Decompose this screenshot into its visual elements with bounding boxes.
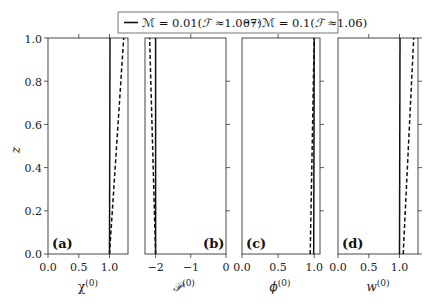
- y-axis-label: z: [9, 146, 23, 154]
- panel-letter: (d): [342, 236, 363, 251]
- series-dashed: [150, 38, 156, 254]
- x-tick-label: 0.5: [360, 261, 378, 274]
- panel-letter: (a): [52, 236, 73, 251]
- y-tick-label: 0.4: [25, 162, 43, 175]
- panel-letter: (b): [203, 236, 224, 251]
- figure: ℳ = 0.01(ℱ ≈1.007) ℳ = 0.1(ℱ ≈1.06) z 0.…: [0, 0, 445, 307]
- panel-d: (d) 0.0 0.5 1.0 w(0): [329, 34, 422, 294]
- panel-frame: [145, 38, 226, 254]
- x-tick-label: 0.0: [233, 261, 251, 274]
- legend-dashed-label: ℳ = 0.1(ℱ ≈1.06): [262, 16, 367, 30]
- panel-a: (a) 0.0 0.5 1.0 χ(0): [39, 34, 128, 294]
- x-axis-label: ϕ(0): [270, 278, 291, 294]
- x-tick-label: 1.0: [101, 261, 119, 274]
- x-tick-label: 0: [223, 261, 230, 274]
- series-dashed: [403, 38, 414, 254]
- y-tick-label: 0.6: [25, 119, 43, 132]
- x-axis-label: 𝒫(0): [173, 278, 195, 294]
- panel-b: (b) −2 −1 0 𝒫(0): [145, 34, 230, 294]
- panel-frame: [48, 38, 128, 254]
- x-tick-label: 0.0: [39, 261, 57, 274]
- x-tick-label: 0.5: [70, 261, 88, 274]
- y-tick-label: 1.0: [25, 33, 43, 46]
- series-solid: [400, 38, 401, 254]
- x-tick-label: 0.0: [329, 261, 347, 274]
- x-tick-label: 1.0: [305, 261, 323, 274]
- y-tick-label: 0.2: [25, 205, 43, 218]
- x-axis-label: w(0): [366, 278, 389, 294]
- legend-solid-label: ℳ = 0.01(ℱ ≈1.007): [142, 16, 262, 30]
- y-tick-labels: 0.0 0.2 0.4 0.6 0.8 1.0: [25, 33, 43, 261]
- y-tick-label: 0.0: [25, 248, 43, 261]
- x-tick-label: −1: [183, 261, 199, 274]
- panel-c: (c) 0.0 0.5 1.0 ϕ(0): [233, 34, 324, 294]
- x-tick-label: 0.5: [269, 261, 287, 274]
- panel-frame: [338, 38, 418, 254]
- series-solid: [110, 38, 111, 254]
- series-dashed: [110, 38, 124, 254]
- x-axis-label: χ(0): [78, 278, 98, 294]
- panel-letter: (c): [246, 236, 266, 251]
- panel-frame: [242, 38, 320, 254]
- legend: ℳ = 0.01(ℱ ≈1.007) ℳ = 0.1(ℱ ≈1.06): [118, 12, 367, 33]
- x-tick-label: 1.0: [391, 261, 409, 274]
- y-tick-label: 0.8: [25, 76, 43, 89]
- x-tick-label: −2: [147, 261, 163, 274]
